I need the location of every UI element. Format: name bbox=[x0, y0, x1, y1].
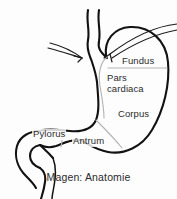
label-fundus: Fundus bbox=[121, 56, 155, 67]
arrow-left-indicator bbox=[50, 43, 82, 58]
duodenum-inner-wall bbox=[30, 145, 40, 168]
stomach-diagram-svg bbox=[0, 0, 177, 199]
stomach-lesser-curvature bbox=[40, 82, 98, 131]
label-pars-cardiaca-line2: cardiaca bbox=[107, 83, 144, 94]
label-pylorus: Pylorus bbox=[32, 129, 66, 140]
label-antrum: Antrum bbox=[72, 136, 105, 147]
label-pars-cardiaca: Pars cardiaca bbox=[106, 73, 148, 94]
label-pars-cardiaca-line1: Pars bbox=[107, 72, 127, 83]
label-corpus: Corpus bbox=[117, 109, 150, 120]
figure-caption: Magen: Anatomie bbox=[0, 171, 177, 183]
esophagus-left-wall bbox=[87, 10, 97, 82]
stomach-anatomy-figure: Fundus Pars cardiaca Corpus Antrum Pylor… bbox=[0, 0, 177, 199]
